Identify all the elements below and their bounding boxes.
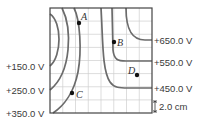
point-d-label: D — [127, 65, 136, 76]
label-550v: +550.0 V — [154, 57, 193, 68]
point-c — [70, 91, 74, 95]
equipotential-diagram: A B C D +150.0 V +250.0 V +350.0 V +650.… — [0, 0, 197, 126]
scale-bracket-icon — [153, 101, 157, 112]
label-450v: +450.0 V — [154, 83, 193, 94]
point-b — [112, 40, 116, 44]
equipotential-150v — [50, 14, 59, 66]
point-a-label: A — [80, 11, 88, 22]
equipotential-250v — [50, 8, 68, 90]
point-d — [135, 73, 139, 77]
label-350v: +350.0 V — [6, 108, 45, 119]
label-650v: +650.0 V — [154, 35, 193, 46]
scale-label: 2.0 cm — [159, 101, 188, 112]
point-b-label: B — [117, 37, 123, 48]
label-150v: +150.0 V — [6, 61, 45, 72]
label-250v: +250.0 V — [6, 85, 45, 96]
point-c-label: C — [76, 89, 83, 100]
